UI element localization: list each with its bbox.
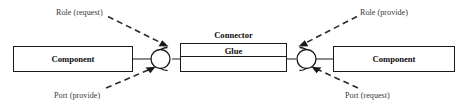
left-ball-port[interactable] <box>151 50 170 69</box>
right-component-label: Component <box>373 54 416 64</box>
connector-title-label: Connector <box>214 30 253 40</box>
role-request-leader-line <box>108 17 164 45</box>
role-provide-arrowhead <box>299 40 309 46</box>
glue-label: Glue <box>225 46 243 56</box>
role-provide-label: Role (provide) <box>360 8 408 17</box>
component-connector-diagram: Role (request) Role (provide) Port (prov… <box>0 0 470 109</box>
role-request-arrowhead <box>159 40 169 46</box>
role-provide-leader-line <box>304 17 358 45</box>
diagram-canvas: Role (request) Role (provide) Port (prov… <box>0 0 470 109</box>
right-ball-port[interactable] <box>297 50 316 69</box>
port-request-label: Port (request) <box>345 91 390 100</box>
port-provide-label: Port (provide) <box>54 91 100 100</box>
left-component-label: Component <box>52 54 95 64</box>
role-request-label: Role (request) <box>56 8 103 17</box>
